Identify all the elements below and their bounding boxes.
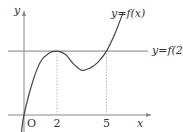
x-axis-arrow: [146, 113, 152, 117]
reference-line-label: y=f(2): [151, 44, 183, 57]
x-tick-label-5: 5: [103, 117, 110, 130]
y-axis-label: y: [13, 4, 21, 17]
x-axis-label: x: [137, 117, 144, 130]
y-axis-arrow: [22, 10, 26, 16]
x-tick-label-2: 2: [54, 117, 61, 130]
function-graph: y x O 2 5 y=f(x) y=f(2): [0, 0, 183, 132]
curve-label: y=f(x): [110, 7, 145, 20]
curve-f-x: [22, 13, 124, 132]
origin-label: O: [27, 117, 36, 130]
